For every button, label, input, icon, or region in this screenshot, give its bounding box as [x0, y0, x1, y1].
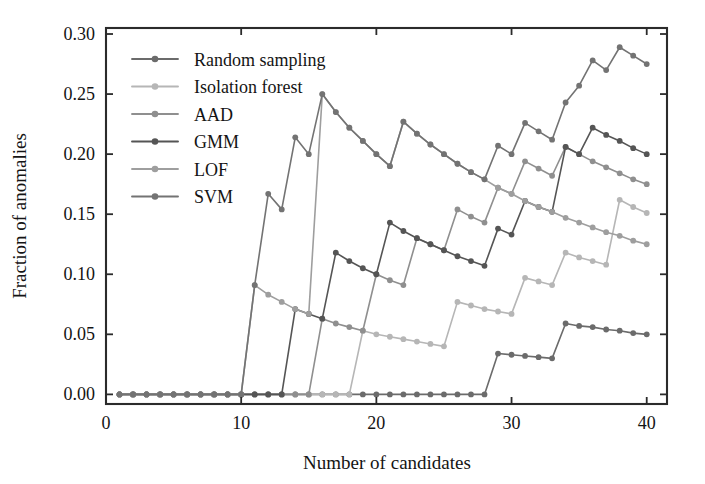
- data-point: [644, 241, 650, 247]
- data-point: [644, 61, 650, 67]
- legend-swatch-marker: [152, 83, 159, 90]
- data-point: [455, 253, 461, 259]
- y-tick-label: 0.10: [64, 264, 96, 284]
- data-point: [130, 391, 136, 397]
- data-point: [549, 282, 555, 288]
- data-point: [401, 336, 407, 342]
- series-svm: [117, 44, 650, 397]
- data-point: [468, 303, 474, 309]
- data-point: [576, 220, 582, 226]
- data-point: [265, 292, 271, 298]
- data-point: [360, 265, 366, 271]
- legend-label: Isolation forest: [194, 77, 302, 97]
- data-point: [549, 173, 555, 179]
- data-point: [279, 299, 285, 305]
- data-point: [549, 355, 555, 361]
- data-point: [603, 132, 609, 138]
- data-point: [455, 391, 461, 397]
- legend-entry[interactable]: Random sampling: [132, 50, 326, 70]
- chart-figure: 0102030400.000.050.100.150.200.250.30 Ra…: [0, 0, 705, 484]
- data-point: [590, 125, 596, 131]
- data-point: [644, 331, 650, 337]
- data-point: [509, 232, 515, 238]
- data-point: [441, 343, 447, 349]
- data-point: [630, 204, 636, 210]
- data-point: [590, 158, 596, 164]
- x-tick-label: 40: [638, 413, 656, 433]
- legend-label: AAD: [194, 105, 233, 125]
- data-point: [401, 119, 407, 125]
- data-point: [428, 391, 434, 397]
- legend-swatch-marker: [152, 56, 159, 63]
- data-point: [319, 316, 325, 322]
- data-point: [617, 138, 623, 144]
- data-point: [536, 166, 542, 172]
- data-point: [373, 271, 379, 277]
- chart-legend: Random samplingIsolation forestAADGMMLOF…: [132, 50, 326, 208]
- series-layer: [117, 44, 650, 397]
- data-point: [509, 151, 515, 157]
- data-point: [333, 109, 339, 115]
- data-point: [455, 206, 461, 212]
- data-point: [495, 351, 501, 357]
- data-point: [333, 391, 339, 397]
- data-point: [468, 214, 474, 220]
- data-point: [630, 330, 636, 336]
- x-axis-title: Number of candidates: [303, 452, 471, 473]
- legend-entry[interactable]: GMM: [132, 132, 239, 152]
- data-point: [617, 233, 623, 239]
- data-point: [252, 391, 258, 397]
- data-point: [292, 134, 298, 140]
- data-point: [617, 328, 623, 334]
- data-point: [563, 321, 569, 327]
- y-tick-label: 0.05: [64, 324, 96, 344]
- data-point: [522, 353, 528, 359]
- data-point: [603, 229, 609, 235]
- data-point: [603, 67, 609, 73]
- legend-label: SVM: [194, 187, 233, 207]
- data-point: [414, 391, 420, 397]
- data-point: [522, 158, 528, 164]
- data-point: [644, 210, 650, 216]
- legend-swatch-marker: [152, 138, 159, 145]
- data-point: [144, 391, 150, 397]
- data-point: [590, 225, 596, 231]
- data-point: [252, 282, 258, 288]
- data-point: [617, 44, 623, 50]
- data-point: [644, 151, 650, 157]
- data-point: [117, 391, 123, 397]
- y-tick-label: 0.25: [64, 84, 96, 104]
- data-point: [468, 391, 474, 397]
- data-point: [536, 128, 542, 134]
- data-point: [238, 391, 244, 397]
- data-point: [306, 311, 312, 317]
- data-point: [482, 176, 488, 182]
- data-point: [482, 263, 488, 269]
- data-point: [360, 138, 366, 144]
- data-point: [265, 391, 271, 397]
- data-point: [373, 151, 379, 157]
- data-point: [387, 334, 393, 340]
- data-point: [428, 142, 434, 148]
- data-point: [265, 191, 271, 197]
- data-point: [346, 258, 352, 264]
- legend-entry[interactable]: AAD: [132, 105, 233, 125]
- legend-entry[interactable]: LOF: [132, 160, 228, 180]
- axis-ticks: [106, 28, 667, 404]
- data-point: [387, 220, 393, 226]
- y-tick-label: 0.30: [64, 24, 96, 44]
- data-point: [333, 321, 339, 327]
- legend-entry[interactable]: Isolation forest: [132, 77, 302, 97]
- data-point: [495, 309, 501, 315]
- series-aad: [117, 144, 650, 397]
- data-point: [306, 151, 312, 157]
- data-point: [319, 391, 325, 397]
- data-point: [536, 279, 542, 285]
- data-point: [401, 391, 407, 397]
- data-point: [360, 328, 366, 334]
- legend-entry[interactable]: SVM: [132, 187, 233, 207]
- data-point: [401, 282, 407, 288]
- data-point: [630, 53, 636, 59]
- data-point: [373, 331, 379, 337]
- data-point: [617, 170, 623, 176]
